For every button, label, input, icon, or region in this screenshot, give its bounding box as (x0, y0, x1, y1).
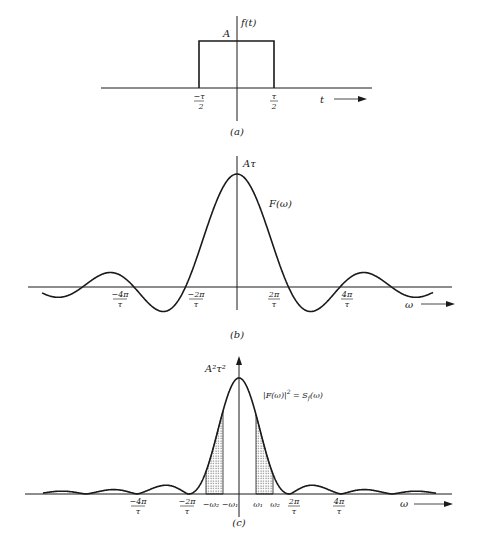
caption-c: (c) (232, 517, 246, 528)
tick-neg-2pi-num: −2π (178, 497, 196, 506)
tick-4pi-den: τ (345, 300, 350, 309)
peak-label: A²τ² (204, 363, 226, 374)
caption-a: (a) (230, 126, 244, 137)
band-label-neg-omega2: −ω₂ (203, 500, 219, 509)
tick-neg-tau-half-num: −τ (193, 92, 205, 101)
tick-neg-2pi-num: −2π (187, 290, 205, 299)
panel-b: Aτ F(ω) −4π τ −2π τ 2π τ 4π τ ω (b) (28, 156, 455, 340)
amplitude-label: A (222, 28, 230, 39)
band-label-neg-omega1: −ω₁ (222, 500, 238, 509)
panel-a: f(t) A −τ 2 τ 2 t (a) (101, 16, 372, 137)
band-label-omega2: ω₂ (270, 500, 280, 509)
tick-neg-2pi-den: τ (185, 507, 190, 516)
arrow-head-icon (358, 96, 367, 102)
curve-label: F(ω) (268, 198, 292, 209)
tick-2pi-num: 2π (268, 290, 280, 299)
tick-neg-2pi-den: τ (194, 300, 199, 309)
panel-c: A²τ² |F(ω)|2 = Sf(ω) −4π τ −2π τ −ω₂ −ω₁… (25, 356, 453, 528)
omega-label: ω (400, 498, 408, 509)
tick-tau-half-num: τ (272, 92, 277, 101)
arrow-head-icon (444, 501, 453, 507)
tick-tau-half-den: 2 (270, 102, 276, 111)
peak-label: Aτ (242, 158, 256, 169)
tick-2pi-den: τ (272, 300, 277, 309)
tick-4pi-num: 4π (333, 497, 345, 506)
tick-2pi-num: 2π (288, 497, 300, 506)
tick-neg-4pi-den: τ (118, 300, 123, 309)
band-label-omega1: ω₁ (253, 500, 263, 509)
figure: f(t) A −τ 2 τ 2 t (a) Aτ F(ω) −4π τ −2π … (0, 0, 478, 543)
tick-neg-4pi-num: −4π (129, 497, 147, 506)
t-label: t (320, 94, 325, 105)
tick-4pi-num: 4π (341, 290, 353, 299)
tick-4pi-den: τ (337, 507, 342, 516)
tick-neg-4pi-den: τ (136, 507, 141, 516)
f-label: f(t) (240, 17, 257, 28)
tick-neg-4pi-num: −4π (111, 290, 129, 299)
omega-label: ω (405, 299, 413, 310)
curve-label: |F(ω)|2 = Sf(ω) (263, 388, 323, 402)
arrow-head-icon (446, 301, 455, 307)
tick-neg-tau-half-den: 2 (197, 102, 203, 111)
tick-2pi-den: τ (292, 507, 297, 516)
arrow-up-icon (236, 356, 242, 365)
caption-b: (b) (230, 329, 244, 340)
